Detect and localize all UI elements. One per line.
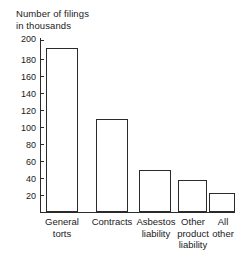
y-tick-label-80: 80	[26, 141, 36, 150]
bar-asbestos-liability	[139, 170, 171, 212]
y-tick-20	[40, 212, 44, 213]
y-tick-label-180: 180	[21, 56, 36, 65]
y-tick-60	[40, 178, 44, 179]
bar-all-other	[209, 193, 235, 212]
y-tick-label-40: 40	[26, 175, 36, 184]
y-tick-100	[40, 144, 44, 145]
y-tick-label-120: 120	[21, 107, 36, 116]
x-axis-line	[40, 212, 235, 213]
y-tick-140	[40, 110, 44, 111]
y-tick-120	[40, 127, 44, 128]
y-tick-label-20: 20	[26, 192, 36, 201]
y-tick-80	[40, 161, 44, 162]
y-axis-line	[40, 38, 41, 213]
bar-general-torts	[46, 48, 78, 212]
y-tick-180	[40, 76, 44, 77]
x-label-general-torts-line-2: torts	[30, 228, 94, 240]
y-tick-label-200: 200	[21, 35, 36, 44]
y-tick-40	[40, 195, 44, 196]
x-label-all-other-line-1: All	[205, 216, 241, 228]
x-label-other-product-liability-line-3: liability	[167, 239, 219, 251]
bar-other-product-liability	[178, 180, 207, 212]
y-tick-200	[40, 40, 44, 41]
y-tick-label-140: 140	[21, 90, 36, 99]
y-tick-label-100: 100	[21, 124, 36, 133]
plot-area: 20 40 60 80 100 120 140 160 180 200 Gene…	[0, 0, 243, 261]
y-tick-minor-190	[40, 59, 44, 60]
bar-contracts	[96, 119, 128, 212]
x-label-all-other: All other	[205, 216, 241, 239]
y-tick-label-160: 160	[21, 73, 36, 82]
y-tick-160	[40, 93, 44, 94]
x-label-all-other-line-2: other	[205, 228, 241, 240]
y-tick-label-60: 60	[26, 158, 36, 167]
bar-chart-figure: Number of filings in thousands 20 40 60 …	[0, 0, 243, 261]
